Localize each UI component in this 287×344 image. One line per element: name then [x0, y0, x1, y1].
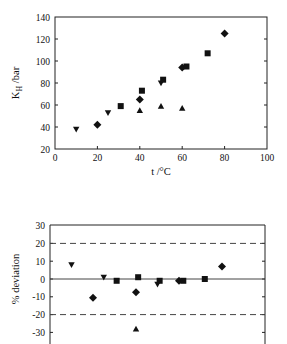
square-marker [114, 278, 120, 284]
y-label-unit: /bar [10, 66, 21, 85]
triangle-up-marker [133, 326, 139, 332]
y-axis-label: % deviation [10, 253, 21, 304]
x-tick-label: 80 [220, 153, 230, 163]
x-tick-label: 20 [93, 153, 103, 163]
diamond-marker [221, 30, 229, 38]
y-tick-label: 30 [36, 221, 46, 231]
square-marker [202, 276, 208, 282]
y-tick-label: 100 [36, 57, 51, 67]
diamond-marker [93, 121, 101, 129]
diamond-marker [136, 96, 144, 104]
y-tick-label: -30 [32, 328, 45, 338]
y-tick-label: 60 [41, 101, 51, 111]
square-marker [118, 103, 124, 109]
triangle-down-marker [73, 127, 79, 133]
square-marker [180, 278, 186, 284]
square-marker [135, 274, 141, 280]
diamond-marker [218, 263, 226, 271]
y-tick-label: -20 [32, 310, 45, 320]
diamond-marker [132, 288, 140, 296]
x-tick-label: 100 [260, 153, 275, 163]
y-tick-label: 120 [36, 35, 51, 45]
x-tick-label: 0 [53, 153, 58, 163]
square-marker [157, 278, 163, 284]
y-tick-label: 10 [36, 257, 46, 267]
y-tick-label: -10 [32, 292, 45, 302]
square-marker [139, 88, 145, 94]
y-tick-label: 20 [41, 145, 51, 155]
triangle-up-marker [158, 103, 164, 109]
x-axis-label: t /°C [151, 166, 171, 177]
x-tick-label: 40 [135, 153, 145, 163]
square-marker [183, 64, 189, 70]
y-tick-label: 40 [41, 123, 51, 133]
top-chart-kh-vs-temperature: 20406080100120140020406080100t /°CKH /ba… [10, 13, 274, 178]
y-tick-label: 0 [40, 275, 45, 285]
triangle-down-marker [105, 110, 111, 116]
x-tick-label: 60 [177, 153, 187, 163]
chart-figure: 20406080100120140020406080100t /°CKH /ba… [0, 0, 287, 344]
triangle-up-marker [179, 105, 185, 111]
triangle-down-marker [101, 275, 107, 281]
y-tick-label: 80 [41, 79, 51, 89]
diamond-marker [89, 294, 97, 302]
triangle-up-marker [137, 107, 143, 113]
square-marker [205, 50, 211, 56]
bottom-chart-percent-deviation: 3020100-10-20-30% deviation [10, 221, 265, 344]
y-axis-label: KH /bar [10, 66, 24, 99]
y-tick-label: 140 [36, 13, 51, 23]
square-marker [160, 77, 166, 83]
y-tick-label: 20 [36, 239, 46, 249]
triangle-down-marker [68, 262, 74, 268]
